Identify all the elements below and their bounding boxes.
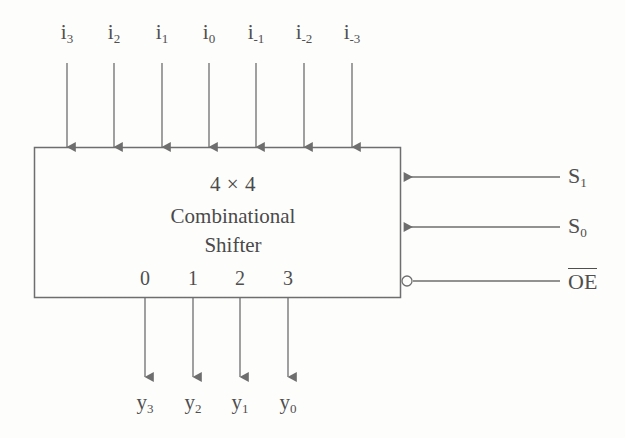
input-label-i2: i2 [108,22,120,45]
input-sub-im2: -2 [302,31,313,46]
control-wires [404,177,560,281]
control-sub-s1: 1 [580,175,587,190]
output-sub-y2: 2 [195,401,202,416]
input-wires [67,63,352,147]
output-port-label-0: 0 [140,268,150,288]
control-base-oe: OE [568,268,597,293]
output-base-y0: y [279,390,290,414]
output-sub-y1: 1 [242,401,249,416]
control-base-s0: S [568,213,580,238]
input-label-im1: i-1 [248,22,265,45]
output-port-label-3: 3 [283,268,293,288]
input-sub-i3: 3 [67,31,74,46]
output-base-y3: y [136,390,147,414]
control-label-s0: S0 [568,215,587,239]
control-base-s1: S [568,163,580,188]
diagram-wires [0,0,625,438]
input-label-i3: i3 [61,22,73,45]
output-base-y1: y [231,390,242,414]
control-sub-s0: 0 [580,225,587,240]
block-title-line-2: Combinational [171,204,296,229]
output-base-y2: y [184,390,195,414]
output-wires [145,298,288,377]
output-sub-y3: 3 [147,401,154,416]
output-port-label-1: 1 [188,268,198,288]
output-sub-y0: 0 [290,401,297,416]
input-label-i0: i0 [203,22,215,45]
block-title-line-1: 4 × 4 [171,172,296,197]
input-label-i1: i1 [156,22,168,45]
output-label-y1: y1 [231,392,248,415]
control-label-s1: S1 [568,165,587,189]
oe-inversion-bubble [402,276,412,286]
input-sub-i2: 2 [114,31,121,46]
control-label-oe: OE [568,268,597,293]
output-label-y2: y2 [184,392,201,415]
output-port-label-2: 2 [235,268,245,288]
shifter-block-diagram: 4 × 4 Combinational Shifter i3 i2 i1 i0 … [0,0,625,438]
output-label-y0: y0 [279,392,296,415]
input-sub-im1: -1 [254,31,265,46]
block-title: 4 × 4 Combinational Shifter [171,172,296,258]
input-label-im3: i-3 [344,22,361,45]
input-sub-i1: 1 [162,31,169,46]
block-title-line-3: Shifter [171,233,296,258]
output-label-y3: y3 [136,392,153,415]
input-sub-im3: -3 [350,31,361,46]
input-sub-i0: 0 [209,31,216,46]
input-label-im2: i-2 [296,22,313,45]
